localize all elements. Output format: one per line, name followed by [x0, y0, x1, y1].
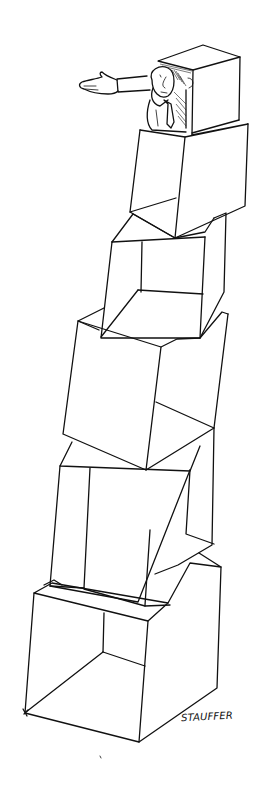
box-2: [130, 124, 248, 238]
man-figure: [80, 67, 193, 132]
top-box: [158, 45, 240, 135]
cartoon-drawing: [0, 0, 258, 788]
box-5: [44, 428, 214, 606]
box-6: [23, 553, 221, 758]
box-3: [101, 213, 226, 338]
